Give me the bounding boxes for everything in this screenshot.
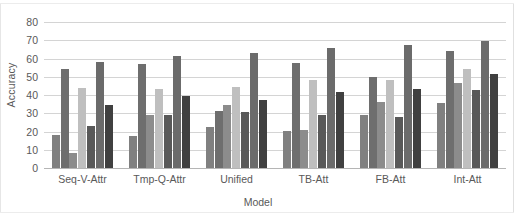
x-axis-tick-label: Tmp-Q-Attr — [121, 174, 198, 185]
x-axis-tick-label: Int-Att — [429, 174, 506, 185]
y-axis-tick-label: 70 — [14, 35, 38, 46]
bar — [138, 64, 146, 168]
figure-border-bottom — [0, 212, 514, 213]
bar-group — [275, 22, 352, 168]
bar — [232, 87, 240, 168]
x-axis-line — [44, 168, 506, 169]
x-axis-tick-label: Unified — [198, 174, 275, 185]
bar — [215, 111, 223, 168]
bar — [463, 69, 471, 168]
x-axis-tick-label: TB-Att — [275, 174, 352, 185]
bar — [173, 56, 181, 168]
bar — [413, 89, 421, 168]
bar — [472, 90, 480, 168]
bar — [283, 131, 291, 168]
figure-border-right — [513, 4, 514, 212]
bar — [87, 126, 95, 168]
x-axis-tick-label: FB-Att — [352, 174, 429, 185]
y-axis-title-text: Accuracy — [5, 63, 17, 108]
bar — [78, 88, 86, 168]
bar — [259, 100, 267, 168]
y-axis-tick-label: 40 — [14, 90, 38, 101]
bar — [164, 115, 172, 168]
bar — [490, 74, 498, 168]
x-axis-title: Model — [0, 196, 516, 208]
bar-group — [121, 22, 198, 168]
x-axis-tick-label: Seq-V-Attr — [44, 174, 121, 185]
figure-border-left — [0, 4, 1, 212]
bar — [52, 135, 60, 168]
bar-group — [44, 22, 121, 168]
bar — [404, 45, 412, 168]
bar — [446, 51, 454, 168]
bar — [377, 102, 385, 168]
y-axis-tick-label: 80 — [14, 17, 38, 28]
bar — [300, 130, 308, 168]
y-axis-tick-label: 60 — [14, 54, 38, 65]
bar — [336, 92, 344, 168]
bar-chart-figure: Accuracy 01020304050607080Seq-V-AttrTmp-… — [0, 0, 516, 216]
bar — [146, 115, 154, 168]
bar — [96, 62, 104, 168]
y-axis-tick-label: 10 — [14, 145, 38, 156]
bar — [481, 41, 489, 168]
bar — [386, 80, 394, 168]
bar — [327, 48, 335, 168]
bar — [182, 96, 190, 168]
bar — [395, 117, 403, 168]
y-axis-tick-label: 0 — [14, 163, 38, 174]
bar — [223, 105, 231, 168]
bar — [241, 112, 249, 168]
bar-group — [352, 22, 429, 168]
bar — [69, 153, 77, 168]
bar — [155, 89, 163, 168]
bar — [250, 53, 258, 168]
bar — [454, 83, 462, 168]
bar — [206, 127, 214, 168]
y-axis-tick-label: 50 — [14, 72, 38, 83]
bar — [437, 103, 445, 168]
figure-border-top — [0, 3, 514, 4]
bar-group — [198, 22, 275, 168]
bar — [61, 69, 69, 168]
bar — [369, 77, 377, 168]
y-axis-tick-label: 30 — [14, 108, 38, 119]
bar — [129, 136, 137, 168]
bar-group — [429, 22, 506, 168]
bar — [309, 80, 317, 168]
x-axis-title-text: Model — [244, 196, 273, 208]
bar — [318, 115, 326, 168]
bar — [360, 115, 368, 168]
bar — [292, 63, 300, 168]
y-axis-tick-label: 20 — [14, 127, 38, 138]
bar — [105, 105, 113, 168]
